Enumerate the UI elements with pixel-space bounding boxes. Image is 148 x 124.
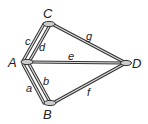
node-c bbox=[43, 21, 55, 26]
edge-label-g: g bbox=[86, 30, 93, 42]
node-label-a: A bbox=[7, 55, 17, 70]
edge-label-c: c bbox=[25, 35, 31, 47]
edge-e bbox=[30, 62, 124, 63]
node-label-b: B bbox=[43, 107, 52, 122]
edge-label-e: e bbox=[68, 50, 74, 62]
edge-label-a: a bbox=[26, 82, 32, 94]
edge-label-b: b bbox=[43, 75, 49, 87]
node-label-c: C bbox=[43, 6, 53, 21]
node-d bbox=[121, 60, 132, 65]
graph-diagram: C A B D c d g e b a f bbox=[0, 0, 148, 124]
node-a bbox=[21, 59, 33, 64]
node-b bbox=[44, 100, 56, 105]
node-label-d: D bbox=[132, 56, 141, 71]
edge-label-f: f bbox=[87, 86, 91, 98]
edge-label-d: d bbox=[39, 41, 46, 53]
edges bbox=[23, 24, 124, 103]
